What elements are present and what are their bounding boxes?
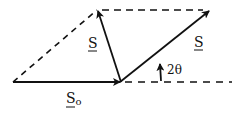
label-angle: 2θ xyxy=(167,63,182,77)
label-s0: So xyxy=(66,90,82,107)
dashed-left-side xyxy=(13,10,97,82)
vector-s-left-arrow xyxy=(98,11,121,82)
label-s-right: S xyxy=(194,34,204,50)
vector-diagram: S S So 2θ xyxy=(0,0,237,113)
angle-arrow-icon xyxy=(160,64,161,81)
label-s-left: S xyxy=(88,35,98,51)
